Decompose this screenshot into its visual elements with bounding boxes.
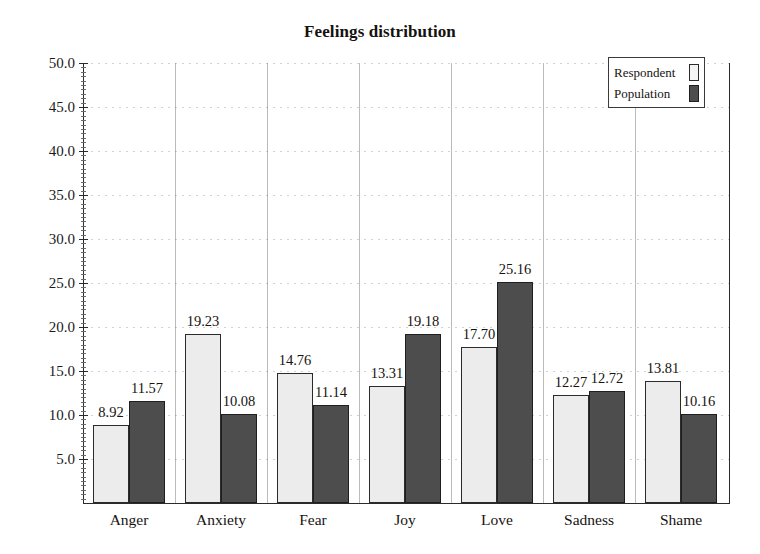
bar-joy-population[interactable] bbox=[405, 334, 441, 503]
y-tick-mark bbox=[79, 63, 88, 64]
bar-shame-population[interactable] bbox=[681, 414, 717, 503]
y-minor-tick bbox=[81, 248, 86, 249]
y-minor-tick bbox=[81, 437, 86, 438]
bar-love-population[interactable] bbox=[497, 282, 533, 503]
y-minor-tick bbox=[81, 274, 86, 275]
y-minor-tick bbox=[81, 494, 86, 495]
y-minor-tick bbox=[81, 331, 86, 332]
bar-love-respondent[interactable] bbox=[461, 347, 497, 503]
y-minor-tick bbox=[81, 142, 86, 143]
group-separator bbox=[175, 63, 176, 503]
bar-sadness-respondent[interactable] bbox=[553, 395, 589, 503]
y-minor-tick bbox=[81, 116, 86, 117]
bar-value-label: 11.14 bbox=[315, 384, 347, 401]
y-minor-tick bbox=[81, 186, 86, 187]
y-minor-tick bbox=[81, 270, 86, 271]
bar-anxiety-population[interactable] bbox=[221, 414, 257, 503]
y-minor-tick bbox=[81, 235, 86, 236]
y-minor-tick bbox=[81, 76, 86, 77]
y-minor-tick bbox=[81, 94, 86, 95]
y-tick-label: 35.0 bbox=[49, 187, 75, 204]
chart-legend: Respondent Population bbox=[608, 57, 705, 108]
legend-label-respondent: Respondent bbox=[614, 65, 675, 81]
y-minor-tick bbox=[81, 265, 86, 266]
bar-shame-respondent[interactable] bbox=[645, 381, 681, 503]
y-minor-tick bbox=[81, 446, 86, 447]
y-minor-tick bbox=[81, 98, 86, 99]
y-minor-tick bbox=[81, 111, 86, 112]
group-separator bbox=[635, 63, 636, 503]
y-minor-tick bbox=[81, 67, 86, 68]
legend-item-respondent: Respondent bbox=[614, 62, 699, 83]
y-minor-tick bbox=[81, 191, 86, 192]
y-minor-tick bbox=[81, 177, 86, 178]
y-tick-mark bbox=[79, 283, 88, 284]
bar-joy-respondent[interactable] bbox=[369, 386, 405, 503]
bar-anxiety-respondent[interactable] bbox=[185, 334, 221, 503]
y-minor-tick bbox=[81, 103, 86, 104]
x-axis-label-sadness: Sadness bbox=[564, 511, 614, 529]
y-minor-tick bbox=[81, 477, 86, 478]
y-minor-tick bbox=[81, 358, 86, 359]
y-tick-mark bbox=[79, 415, 88, 416]
bar-fear-population[interactable] bbox=[313, 405, 349, 503]
y-minor-tick bbox=[81, 120, 86, 121]
y-minor-tick bbox=[81, 305, 86, 306]
y-tick-label: 5.0 bbox=[56, 451, 75, 468]
chart-figure: Feelings distribution 50.045.040.035.030… bbox=[0, 0, 760, 554]
y-minor-tick bbox=[81, 318, 86, 319]
y-minor-tick bbox=[81, 279, 86, 280]
y-minor-tick bbox=[81, 314, 86, 315]
y-minor-tick bbox=[81, 384, 86, 385]
y-minor-tick bbox=[81, 485, 86, 486]
bar-fear-respondent[interactable] bbox=[277, 373, 313, 503]
bar-value-label: 11.57 bbox=[131, 380, 163, 397]
y-minor-tick bbox=[81, 199, 86, 200]
y-minor-tick bbox=[81, 340, 86, 341]
y-minor-tick bbox=[81, 463, 86, 464]
y-minor-tick bbox=[81, 213, 86, 214]
y-minor-tick bbox=[81, 204, 86, 205]
y-minor-tick bbox=[81, 169, 86, 170]
y-tick-mark bbox=[79, 151, 88, 152]
y-tick-label: 30.0 bbox=[49, 231, 75, 248]
y-minor-tick bbox=[81, 397, 86, 398]
y-minor-tick bbox=[81, 252, 86, 253]
y-minor-tick bbox=[81, 138, 86, 139]
legend-swatch-population-icon bbox=[689, 85, 699, 102]
y-minor-tick bbox=[81, 182, 86, 183]
bar-value-label: 12.72 bbox=[591, 370, 624, 387]
y-minor-tick bbox=[81, 155, 86, 156]
y-tick-mark bbox=[79, 107, 88, 108]
y-minor-tick bbox=[81, 362, 86, 363]
gridline bbox=[84, 283, 729, 284]
y-minor-tick bbox=[81, 301, 86, 302]
bar-anger-respondent[interactable] bbox=[93, 425, 129, 503]
y-tick-label: 45.0 bbox=[49, 99, 75, 116]
bar-value-label: 8.92 bbox=[98, 404, 123, 421]
y-minor-tick bbox=[81, 160, 86, 161]
y-minor-tick bbox=[81, 424, 86, 425]
chart-title: Feelings distribution bbox=[0, 22, 760, 42]
bar-anger-population[interactable] bbox=[129, 401, 165, 503]
y-minor-tick bbox=[81, 230, 86, 231]
y-tick-mark bbox=[79, 371, 88, 372]
y-minor-tick bbox=[81, 380, 86, 381]
x-axis-label-love: Love bbox=[481, 511, 513, 529]
bar-value-label: 14.76 bbox=[279, 352, 312, 369]
y-minor-tick bbox=[81, 336, 86, 337]
y-minor-tick bbox=[81, 468, 86, 469]
y-minor-tick bbox=[81, 433, 86, 434]
x-axis-label-joy: Joy bbox=[394, 511, 416, 529]
bar-sadness-population[interactable] bbox=[589, 391, 625, 503]
y-minor-tick bbox=[81, 490, 86, 491]
y-minor-tick bbox=[81, 226, 86, 227]
plot-right-border bbox=[729, 63, 730, 504]
y-minor-tick bbox=[81, 261, 86, 262]
y-minor-tick bbox=[81, 389, 86, 390]
legend-item-population: Population bbox=[614, 83, 699, 104]
group-separator bbox=[359, 63, 360, 503]
y-minor-tick bbox=[81, 243, 86, 244]
bar-value-label: 10.16 bbox=[683, 393, 716, 410]
y-minor-tick bbox=[81, 173, 86, 174]
